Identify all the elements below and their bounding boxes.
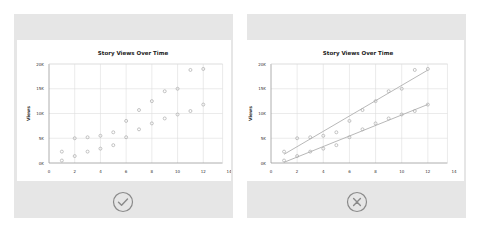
data-point-upper <box>361 109 364 112</box>
y-tick-label: 5K <box>261 136 267 141</box>
y-tick-label: 15K <box>36 86 44 91</box>
x-tick-label: 10 <box>175 169 181 174</box>
chart-title: Story Views Over Time <box>98 50 169 57</box>
y-axis-label: Views <box>26 106 31 121</box>
x-tick-label: 2 <box>73 169 76 174</box>
check-circle-icon <box>112 191 134 213</box>
x-tick-label: 12 <box>425 169 431 174</box>
data-point-upper <box>163 90 166 93</box>
data-point-lower <box>163 117 166 120</box>
x-tick-label: 6 <box>125 169 128 174</box>
data-point-upper <box>413 68 416 71</box>
x-tick-label: 2 <box>296 169 299 174</box>
y-tick-label: 10K <box>36 111 44 116</box>
data-point-lower <box>283 159 286 162</box>
y-tick-label: 5K <box>39 136 45 141</box>
data-point-lower <box>86 150 89 153</box>
trendline-upper <box>284 70 428 154</box>
data-point-upper <box>138 109 141 112</box>
y-axis-label: Views <box>248 106 253 121</box>
bad-example-panel: Story Views Over Time024681012140K5K10K1… <box>247 14 466 218</box>
chart-card: Story Views Over Time024681012140K5K10K1… <box>17 40 231 181</box>
x-tick-label: 4 <box>99 169 102 174</box>
data-point-upper <box>60 150 63 153</box>
chart-title: Story Views Over Time <box>323 50 394 57</box>
x-tick-label: 14 <box>226 169 231 174</box>
y-tick-label: 10K <box>258 111 266 116</box>
x-tick-label: 0 <box>270 169 273 174</box>
data-point-lower <box>387 117 390 120</box>
x-tick-label: 6 <box>348 169 351 174</box>
x-tick-label: 4 <box>322 169 325 174</box>
x-circle-icon <box>346 191 368 213</box>
x-tick-label: 12 <box>201 169 207 174</box>
data-point-upper <box>335 131 338 134</box>
data-point-lower <box>138 128 141 131</box>
x-tick-label: 8 <box>374 169 377 174</box>
x-tick-label: 0 <box>48 169 51 174</box>
y-tick-label: 20K <box>36 62 44 67</box>
y-tick-label: 0K <box>39 161 45 166</box>
data-point-lower <box>60 159 63 162</box>
scatter-chart-with-trendlines: Story Views Over Time024681012140K5K10K1… <box>241 40 464 181</box>
x-tick-label: 8 <box>151 169 154 174</box>
y-tick-label: 15K <box>258 86 266 91</box>
scatter-chart: Story Views Over Time024681012140K5K10K1… <box>17 40 231 181</box>
x-tick-label: 10 <box>399 169 405 174</box>
data-point-upper <box>283 150 286 153</box>
y-tick-label: 0K <box>261 161 267 166</box>
data-point-upper <box>189 68 192 71</box>
x-tick-label: 14 <box>451 169 457 174</box>
chart-card: Story Views Over Time024681012140K5K10K1… <box>241 40 464 181</box>
good-example-panel: Story Views Over Time024681012140K5K10K1… <box>14 14 233 218</box>
data-point-upper <box>112 131 115 134</box>
data-point-lower <box>112 144 115 147</box>
data-point-lower <box>189 110 192 113</box>
data-point-upper <box>387 90 390 93</box>
trendline-lower <box>284 104 428 162</box>
y-tick-label: 20K <box>258 62 266 67</box>
data-point-lower <box>335 144 338 147</box>
